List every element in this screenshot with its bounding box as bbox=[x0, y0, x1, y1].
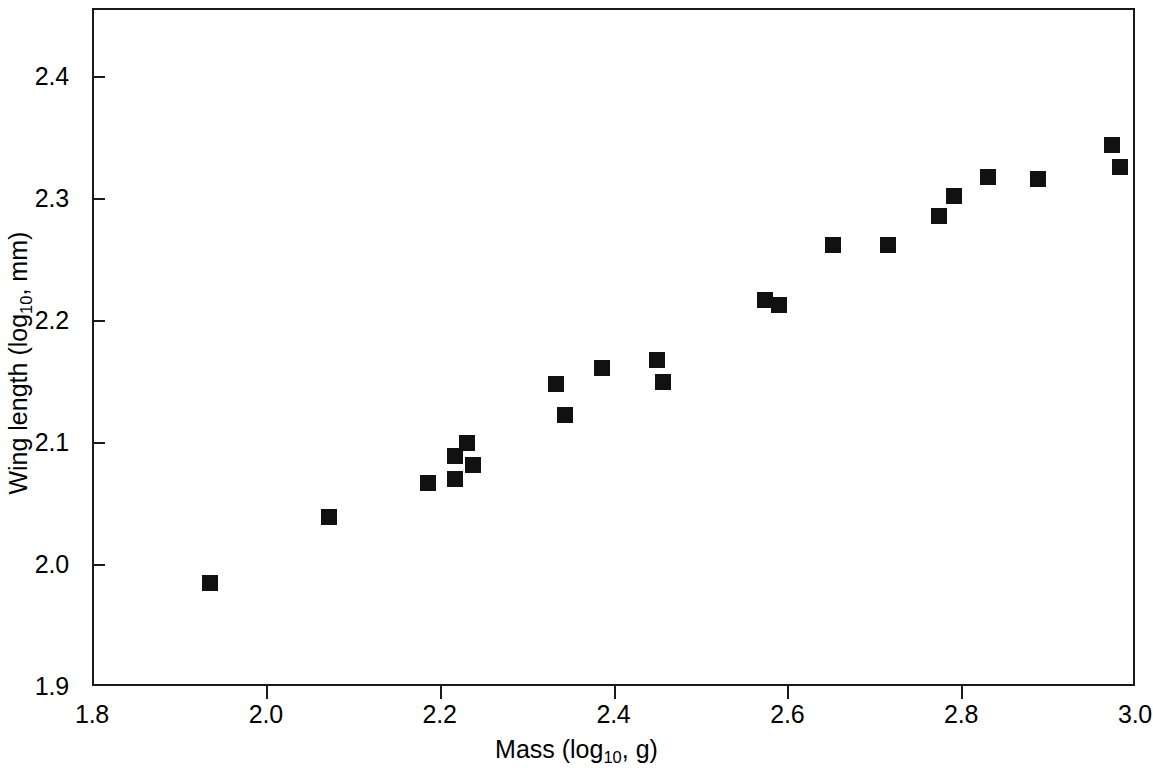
subscript-10: 10 bbox=[603, 748, 621, 766]
y-axis-tick bbox=[92, 198, 105, 200]
data-point-marker bbox=[594, 360, 610, 376]
data-point-marker bbox=[459, 435, 475, 451]
y-axis-tick bbox=[92, 564, 105, 566]
y-axis-tick-label: 2.2 bbox=[35, 306, 69, 335]
y-axis-tick-label: 2.1 bbox=[35, 428, 69, 457]
data-point-marker bbox=[655, 374, 671, 390]
x-axis-tick bbox=[961, 686, 963, 699]
x-axis-tick-label: 2.8 bbox=[944, 700, 978, 729]
x-axis-tick-label: 2.4 bbox=[596, 700, 630, 729]
x-axis-tick-label: 2.2 bbox=[423, 700, 457, 729]
x-axis-tick-label: 1.8 bbox=[75, 700, 109, 729]
data-point-marker bbox=[771, 297, 787, 313]
x-axis-tick-label: 2.6 bbox=[770, 700, 804, 729]
subscript-10: 10 bbox=[17, 296, 35, 314]
y-axis-tick-label: 1.9 bbox=[35, 672, 69, 701]
data-point-marker bbox=[1112, 159, 1128, 175]
data-point-marker bbox=[420, 475, 436, 491]
y-axis-tick bbox=[92, 76, 105, 78]
x-axis-title: Mass (log10, g) bbox=[495, 735, 658, 763]
data-point-marker bbox=[980, 169, 996, 185]
data-point-marker bbox=[880, 237, 896, 253]
data-point-marker bbox=[825, 237, 841, 253]
data-point-marker bbox=[1104, 137, 1120, 153]
x-axis-tick bbox=[440, 686, 442, 699]
data-point-marker bbox=[202, 575, 218, 591]
data-point-marker bbox=[548, 376, 564, 392]
y-axis-tick-label: 2.4 bbox=[35, 62, 69, 91]
scatter-plot-figure: 1.92.02.12.22.32.4 1.82.02.22.42.62.83.0… bbox=[0, 0, 1153, 768]
y-axis-title-wrap: Wing length (log10, mm) bbox=[4, 13, 36, 713]
plot-data-area bbox=[94, 10, 1133, 684]
x-axis-title-wrap: Mass (log10, g) bbox=[0, 735, 1153, 767]
data-point-marker bbox=[946, 188, 962, 204]
x-axis-tick bbox=[614, 686, 616, 699]
data-point-marker bbox=[1030, 171, 1046, 187]
data-point-marker bbox=[465, 457, 481, 473]
y-axis-tick bbox=[92, 320, 105, 322]
data-point-marker bbox=[649, 352, 665, 368]
data-point-marker bbox=[321, 509, 337, 525]
x-axis-tick-label: 2.0 bbox=[249, 700, 283, 729]
y-axis-tick-label: 2.3 bbox=[35, 184, 69, 213]
y-axis-tick-label: 2.0 bbox=[35, 550, 69, 579]
x-axis-tick-label: 3.0 bbox=[1118, 700, 1152, 729]
y-axis-tick bbox=[92, 442, 105, 444]
x-axis-tick bbox=[266, 686, 268, 699]
plot-frame bbox=[92, 8, 1135, 686]
data-point-marker bbox=[447, 471, 463, 487]
y-axis-title: Wing length (log10, mm) bbox=[4, 232, 32, 495]
data-point-marker bbox=[931, 208, 947, 224]
x-axis-tick bbox=[787, 686, 789, 699]
data-point-marker bbox=[557, 407, 573, 423]
